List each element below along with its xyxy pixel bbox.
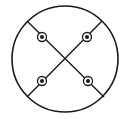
marker-dot bbox=[40, 79, 44, 83]
circle-cross-diagram bbox=[0, 0, 131, 119]
marker-bottom-right bbox=[84, 77, 93, 86]
marker-dot bbox=[86, 79, 90, 83]
marker-dot bbox=[85, 35, 89, 39]
marker-dot bbox=[40, 35, 44, 39]
marker-top-right bbox=[83, 33, 92, 42]
marker-top-left bbox=[38, 33, 47, 42]
marker-bottom-left bbox=[38, 77, 47, 86]
